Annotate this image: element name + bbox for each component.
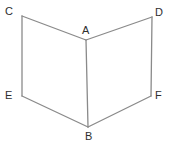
vertex-label-c: C [5, 6, 13, 17]
edge-ca [22, 16, 86, 40]
vertex-label-f: F [155, 90, 162, 101]
edge-bf [88, 96, 151, 127]
edge-eb [22, 96, 88, 127]
vertex-label-d: D [155, 7, 163, 18]
edge-df [151, 17, 152, 96]
edge-ad [86, 17, 152, 40]
vertex-label-b: B [85, 131, 92, 142]
geometry-diagram: ABCDEF [0, 0, 171, 151]
vertex-label-e: E [5, 90, 12, 101]
vertex-label-a: A [82, 25, 89, 36]
figure-canvas [0, 0, 171, 151]
edge-ab [86, 40, 88, 127]
